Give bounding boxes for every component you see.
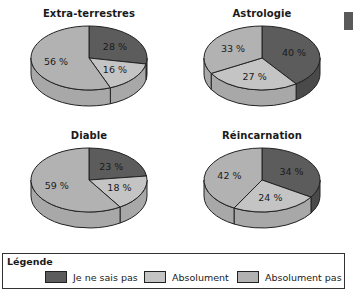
legend-label: Je ne sais pas xyxy=(73,272,138,283)
svg-text:18 %: 18 % xyxy=(107,182,131,193)
legend-swatch-dark xyxy=(45,271,67,283)
svg-text:27 %: 27 % xyxy=(243,71,267,82)
legend-title: Légende xyxy=(7,256,53,267)
legend-item-absolument-pas: Absolument pas xyxy=(237,271,342,283)
svg-text:40 %: 40 % xyxy=(282,47,306,58)
legend-box: Légende Je ne sais pas Absolument Absolu… xyxy=(2,253,345,289)
pie-title: Diable xyxy=(14,130,164,141)
legend-item-je-ne-sais-pas: Je ne sais pas xyxy=(45,271,138,283)
legend-label: Absolument pas xyxy=(265,272,342,283)
pie-graphic: 34 %24 %42 % xyxy=(187,144,337,244)
svg-text:56 %: 56 % xyxy=(44,56,68,67)
svg-text:23 %: 23 % xyxy=(99,161,123,172)
svg-text:34 %: 34 % xyxy=(279,166,303,177)
pie-title: Extra-terrestres xyxy=(14,8,164,19)
svg-text:16 %: 16 % xyxy=(103,64,127,75)
svg-text:33 %: 33 % xyxy=(221,43,245,54)
svg-text:24 %: 24 % xyxy=(258,192,282,203)
pie-chart-extra-terrestres: Extra-terrestres 28 %16 %56 % xyxy=(14,8,164,123)
pie-graphic: 40 %27 %33 % xyxy=(187,22,337,122)
legend-label: Absolument xyxy=(172,272,229,283)
pie-graphic: 28 %16 %56 % xyxy=(14,22,164,122)
pie-graphic: 23 %18 %59 % xyxy=(14,144,164,244)
pie-chart-diable: Diable 23 %18 %59 % xyxy=(14,130,164,245)
pie-chart-reincarnation: Réincarnation 34 %24 %42 % xyxy=(187,130,337,245)
svg-text:42 %: 42 % xyxy=(217,170,241,181)
legend-swatch-medium xyxy=(237,271,259,283)
legend-swatch-light xyxy=(144,271,166,283)
side-tab-marker xyxy=(344,12,353,30)
pie-title: Astrologie xyxy=(187,8,337,19)
svg-text:59 %: 59 % xyxy=(45,180,69,191)
pie-chart-astrologie: Astrologie 40 %27 %33 % xyxy=(187,8,337,123)
legend-item-absolument: Absolument xyxy=(144,271,229,283)
pie-title: Réincarnation xyxy=(187,130,337,141)
svg-text:28 %: 28 % xyxy=(103,41,127,52)
